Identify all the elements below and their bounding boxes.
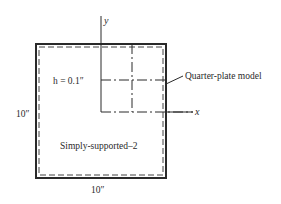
width-dimension-label: 10″ [91,185,105,195]
callout-leader [166,76,183,84]
thickness-label: h = 0.1″ [53,76,84,86]
boundary-label: Simply-supported–2 [60,141,138,151]
plate-diagram: y x Quarter-plate model h = 0.1″ Simply-… [0,0,281,204]
y-axis-label: y [103,15,109,26]
callout-label: Quarter-plate model [185,71,262,81]
x-axis-label: x [194,106,200,117]
height-dimension-label: 10″ [16,109,30,119]
